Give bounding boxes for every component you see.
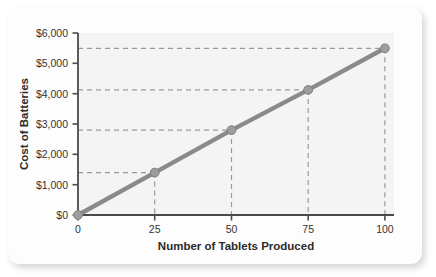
y-axis-title: Cost of Batteries: [18, 78, 30, 170]
x-tick-label-100: 100: [376, 223, 394, 235]
y-tick-label-4000: $4,000: [36, 88, 68, 100]
data-point-75: [304, 86, 313, 95]
line-chart: $6,000 $5,000 $4,000 $3,000 $2,000 $1,00…: [0, 0, 436, 277]
y-tick-label-3000: $3,000: [36, 118, 68, 130]
y-tick-label-2000: $2,000: [36, 148, 68, 160]
x-tick-label-0: 0: [75, 223, 81, 235]
x-axis-title: Number of Tablets Produced: [158, 240, 314, 252]
data-point-25: [150, 168, 159, 177]
y-tick-label-6000: $6,000: [36, 27, 68, 39]
y-tick-label-0: $0: [56, 209, 68, 221]
data-point-50: [227, 126, 236, 135]
y-tick-labels: $6,000 $5,000 $4,000 $3,000 $2,000 $1,00…: [36, 27, 68, 221]
x-tick-labels: 0 25 50 75 100: [75, 223, 394, 235]
x-tick-label-75: 75: [302, 223, 314, 235]
data-point-0: [74, 211, 83, 220]
data-point-100: [381, 44, 390, 53]
y-tick-label-5000: $5,000: [36, 57, 68, 69]
x-tick-label-50: 50: [226, 223, 238, 235]
x-tick-label-25: 25: [149, 223, 161, 235]
chart-figure: $6,000 $5,000 $4,000 $3,000 $2,000 $1,00…: [0, 0, 436, 277]
y-tick-label-1000: $1,000: [36, 179, 68, 191]
